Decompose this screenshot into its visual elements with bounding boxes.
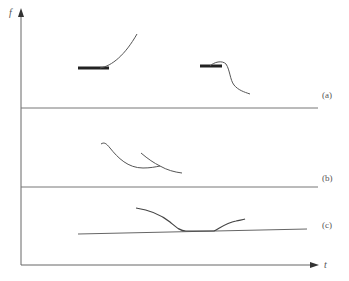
panel-a-curves (78, 34, 250, 94)
panel-b-curve-1 (101, 143, 160, 168)
diagram-canvas (0, 0, 349, 281)
panel-b-label: (b) (322, 173, 333, 183)
x-axis-label: t (324, 259, 327, 270)
panel-c-label: (c) (322, 220, 332, 230)
y-axis-arrow-icon (18, 8, 24, 17)
panel-b-curves (101, 143, 182, 173)
panel-c-curves (78, 208, 307, 234)
y-axis-label: f (9, 7, 12, 18)
y-axis (18, 8, 24, 265)
panel-b-curve-2 (141, 153, 182, 173)
panel-a-rising-curve (100, 34, 137, 68)
panel-c-dip-curve (136, 208, 245, 231)
x-axis (21, 262, 319, 268)
x-axis-arrow-icon (310, 262, 319, 268)
panel-a-label: (a) (322, 90, 332, 100)
